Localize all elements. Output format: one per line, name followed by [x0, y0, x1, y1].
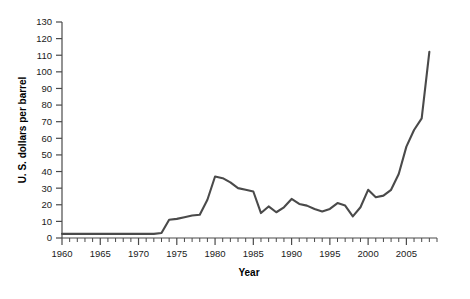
y-tick-label: 70: [41, 116, 52, 127]
x-tick-label: 1965: [90, 248, 111, 259]
y-tick-label: 0: [47, 232, 52, 243]
x-axis-title: Year: [238, 267, 259, 278]
y-tick-label: 60: [41, 133, 52, 144]
x-tick-label: 1960: [51, 248, 72, 259]
oil-price-chart: 0102030405060708090100110120130 19601965…: [0, 0, 470, 299]
y-tick-label: 120: [36, 33, 52, 44]
y-tick-label: 40: [41, 166, 52, 177]
y-tick-label: 30: [41, 183, 52, 194]
y-tick-label: 90: [41, 83, 52, 94]
chart-canvas: 0102030405060708090100110120130 19601965…: [0, 0, 470, 299]
x-tick-label: 1975: [166, 248, 187, 259]
x-axis-major-ticks: [62, 238, 406, 245]
x-tick-label: 1980: [204, 248, 225, 259]
x-tick-label: 2005: [396, 248, 417, 259]
y-tick-label: 110: [37, 50, 52, 61]
x-tick-label: 1995: [319, 248, 340, 259]
y-tick-label: 130: [36, 16, 52, 27]
x-tick-label: 2000: [358, 248, 379, 259]
y-tick-label: 100: [36, 66, 52, 77]
x-tick-label: 1990: [281, 248, 302, 259]
x-axis-tick-labels: 1960196519701975198019851990199520002005: [51, 248, 417, 259]
y-tick-label: 50: [41, 149, 52, 160]
y-axis-tick-labels: 0102030405060708090100110120130: [36, 16, 52, 243]
price-line-series: [62, 52, 429, 234]
y-tick-label: 10: [41, 216, 52, 227]
x-tick-label: 1985: [243, 248, 264, 259]
y-tick-label: 80: [41, 99, 52, 110]
x-tick-label: 1970: [128, 248, 149, 259]
y-axis-ticks: [56, 22, 62, 238]
y-axis-title: U. S. dollars per barrel: [17, 76, 28, 183]
y-tick-label: 20: [41, 199, 52, 210]
